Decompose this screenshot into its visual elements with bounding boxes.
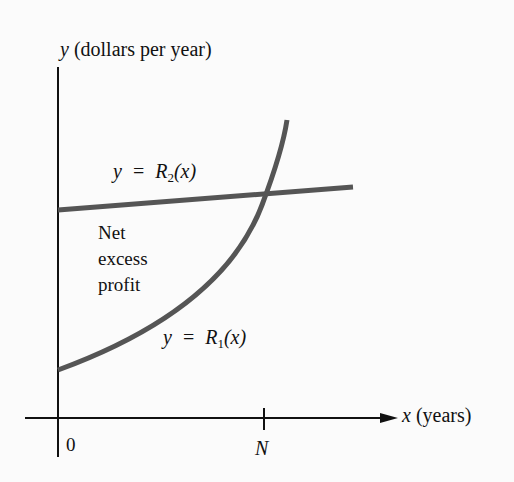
n-label: N bbox=[255, 437, 268, 460]
origin-label: 0 bbox=[66, 434, 76, 456]
r1-label-eq: = bbox=[183, 326, 194, 348]
y-axis-label-text: (dollars per year) bbox=[69, 38, 212, 60]
x-axis-label-var: x bbox=[402, 404, 411, 426]
region-label-line3: profit bbox=[98, 272, 148, 298]
r2-label: y = R2(x) bbox=[113, 160, 196, 186]
x-axis-label: x (years) bbox=[402, 404, 471, 427]
r2-line bbox=[58, 187, 353, 210]
net-excess-profit-label: Net excess profit bbox=[98, 220, 148, 298]
r1-label-lhs: y bbox=[163, 326, 172, 348]
r2-label-func: R bbox=[155, 160, 167, 182]
x-axis-label-text: (years) bbox=[411, 404, 472, 426]
region-label-line2: excess bbox=[98, 246, 148, 272]
region-label-line1: Net bbox=[98, 220, 148, 246]
y-axis-label-var: y bbox=[60, 38, 69, 60]
r1-label-func: R bbox=[205, 326, 217, 348]
x-axis-arrowhead-icon bbox=[380, 413, 398, 423]
r2-label-eq: = bbox=[133, 160, 144, 182]
r1-label: y = R1(x) bbox=[163, 326, 246, 352]
r1-label-arg: (x) bbox=[224, 326, 246, 348]
r2-label-arg: (x) bbox=[174, 160, 196, 182]
y-axis-label: y (dollars per year) bbox=[60, 38, 212, 61]
r2-label-lhs: y bbox=[113, 160, 122, 182]
